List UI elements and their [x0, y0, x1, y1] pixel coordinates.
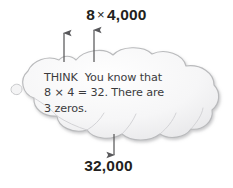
math-strategy-diagram: 8×4,000 [0, 0, 233, 188]
think-line-2: 8 × 4 = 32. There are [44, 85, 196, 100]
think-line-1: THINK You know that [44, 70, 196, 85]
think-keyword: THINK [44, 71, 78, 84]
think-line-1-rest: You know that [85, 71, 162, 84]
bottom-product: 32,000 [0, 157, 225, 175]
think-line-3: 3 zeros. [44, 101, 196, 116]
think-callout-text: THINK You know that 8 × 4 = 32. There ar… [44, 70, 196, 116]
cloud-puff-left [11, 84, 22, 94]
